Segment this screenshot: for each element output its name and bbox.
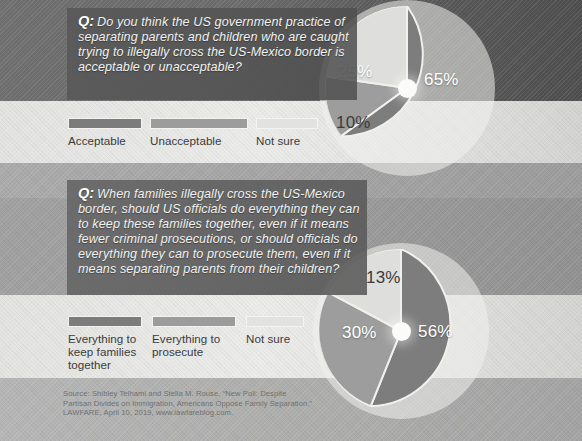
legend-label-not-sure-2: Not sure — [246, 332, 316, 345]
pie-2-label-13: 13% — [366, 268, 401, 288]
legend-swatch-acceptable — [68, 118, 142, 129]
question-2-text-block: Q:When families illegally cross the US-M… — [78, 186, 370, 278]
pie-2-center-hub — [392, 322, 411, 341]
pie-1-label-10: 10% — [336, 113, 371, 133]
pie-2-label-56: 56% — [418, 322, 453, 342]
legend-swatch-keep-families-together — [68, 316, 142, 327]
legend-swatch-unacceptable — [150, 118, 248, 129]
pie-2-label-30: 30% — [342, 323, 377, 343]
legend-label-unacceptable: Unacceptable — [150, 134, 248, 147]
legend-label-acceptable: Acceptable — [68, 134, 142, 147]
question-1-text-block: Q:Do you think the US government practic… — [78, 14, 350, 75]
source-citation: Source: Shibley Telhami and Stella M. Ro… — [63, 389, 363, 418]
pie-1-center-hub — [398, 79, 417, 98]
legend-item-keep-families-together[interactable]: Everything to keep families together — [68, 316, 142, 371]
infographic-canvas: 65% 25% 10% Q:Do you think the US govern… — [0, 0, 582, 441]
legend-item-acceptable[interactable]: Acceptable — [68, 118, 142, 147]
question-2-text: When families illegally cross the US-Mex… — [78, 187, 360, 276]
source-line-3: LAWFARE, April 10, 2019, www.lawfareblog… — [63, 408, 363, 418]
legend-question-2: Everything to keep families together Eve… — [68, 316, 316, 371]
legend-label-prosecute: Everything to prosecute — [152, 332, 236, 358]
legend-swatch-prosecute — [152, 316, 236, 327]
source-line-2: Partisan Divides on Immigration, America… — [63, 399, 363, 409]
legend-label-not-sure-1: Not sure — [256, 134, 330, 147]
legend-swatch-not-sure-1 — [256, 118, 318, 129]
legend-item-unacceptable[interactable]: Unacceptable — [150, 118, 248, 147]
source-line-1: Source: Shibley Telhami and Stella M. Ro… — [63, 389, 363, 399]
question-2-q-marker: Q: — [78, 185, 97, 201]
question-1-text: Do you think the US government practice … — [78, 15, 349, 74]
legend-swatch-not-sure-2 — [246, 316, 304, 327]
legend-item-not-sure-2[interactable]: Not sure — [246, 316, 316, 371]
legend-label-keep-families-together: Everything to keep families together — [68, 332, 142, 371]
legend-item-prosecute[interactable]: Everything to prosecute — [152, 316, 236, 371]
legend-item-not-sure-1[interactable]: Not sure — [256, 118, 330, 147]
pie-1-label-65: 65% — [424, 70, 459, 90]
legend-question-1: Acceptable Unacceptable Not sure — [68, 118, 330, 147]
question-1-q-marker: Q: — [78, 13, 97, 29]
